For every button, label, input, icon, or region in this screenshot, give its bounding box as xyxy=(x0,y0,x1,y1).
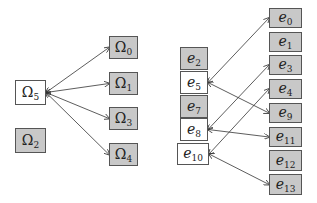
node-e9: e9 xyxy=(269,103,302,123)
edge-omega5-omega3 xyxy=(46,93,109,119)
edge-e5-e0 xyxy=(208,18,269,83)
node-e1: e1 xyxy=(269,32,302,52)
edge-e8-e3 xyxy=(208,65,269,130)
edge-e10-e4 xyxy=(209,89,269,154)
node-label: e13 xyxy=(276,176,296,194)
node-omega4: Ω4 xyxy=(109,143,138,166)
edge-omega5-omega4 xyxy=(46,93,109,155)
node-e8: e8 xyxy=(180,118,208,141)
node-label: e5 xyxy=(187,74,201,92)
node-e12: e12 xyxy=(269,150,302,171)
node-e11: e11 xyxy=(269,127,302,147)
node-label: Ω3 xyxy=(115,110,132,128)
node-omega5: Ω5 xyxy=(15,80,46,105)
node-omega3: Ω3 xyxy=(109,107,138,130)
node-e2: e2 xyxy=(180,47,208,70)
node-label: Ω2 xyxy=(22,132,39,150)
node-label: e12 xyxy=(276,152,296,170)
node-label: e2 xyxy=(187,50,201,68)
node-e3: e3 xyxy=(269,55,302,75)
edge-e10-e13 xyxy=(209,154,269,185)
node-e4: e4 xyxy=(269,79,302,99)
edge-e8-e11 xyxy=(208,130,269,138)
node-label: Ω5 xyxy=(22,84,39,102)
node-label: e11 xyxy=(276,128,296,146)
node-label: Ω1 xyxy=(115,75,132,93)
node-e0: e0 xyxy=(269,8,302,28)
node-label: e9 xyxy=(278,104,292,122)
edge-omega5-omega1 xyxy=(46,84,109,93)
node-label: e8 xyxy=(187,121,201,139)
node-label: e4 xyxy=(278,80,292,98)
node-label: Ω4 xyxy=(115,146,132,164)
node-label: e10 xyxy=(183,145,203,163)
node-omega0: Ω0 xyxy=(109,36,138,59)
node-e5: e5 xyxy=(180,71,208,94)
node-label: e0 xyxy=(278,9,292,27)
node-label: e7 xyxy=(187,98,201,116)
node-e10: e10 xyxy=(177,143,209,165)
node-omega1: Ω1 xyxy=(109,72,138,95)
node-e7: e7 xyxy=(180,95,208,118)
node-label: e1 xyxy=(278,33,292,51)
edge-omega5-omega0 xyxy=(46,48,109,93)
node-label: e3 xyxy=(278,56,292,74)
node-e13: e13 xyxy=(269,174,302,195)
edges-layer xyxy=(0,0,317,203)
node-label: Ω0 xyxy=(115,39,132,57)
node-omega2: Ω2 xyxy=(15,128,46,153)
